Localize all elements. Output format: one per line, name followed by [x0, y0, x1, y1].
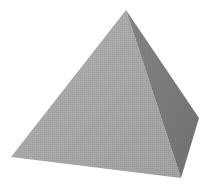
- pyramid-image: [0, 0, 214, 187]
- pyramid-graphic: [0, 0, 214, 187]
